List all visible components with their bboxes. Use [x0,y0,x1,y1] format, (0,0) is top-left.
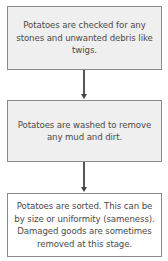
connector-line [83,162,85,188]
arrow-down-icon [81,94,87,99]
step-text: Potatoes are checked for any stones and … [12,19,157,57]
flow-step-check-debris: Potatoes are checked for any stones and … [7,6,162,70]
connector-line [83,70,85,95]
step-text: Potatoes are sorted. This can be by size… [12,200,157,250]
flow-step-wash: Potatoes are washed to remove any mud an… [7,100,162,162]
flow-step-sort: Potatoes are sorted. This can be by size… [7,193,162,257]
arrow-down-icon [81,187,87,192]
step-text: Potatoes are washed to remove any mud an… [12,119,157,144]
